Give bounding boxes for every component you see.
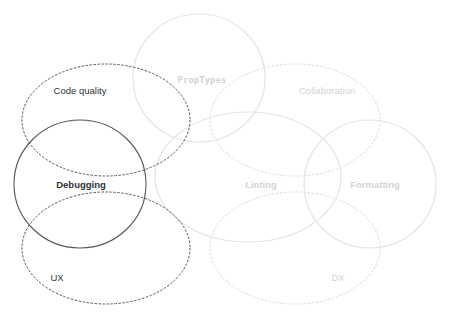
label-linting: Linting: [245, 180, 277, 190]
set-ux-shape[interactable]: [22, 192, 190, 304]
venn-diagram: Code quality Debugging UX PropTypes Coll…: [0, 0, 451, 323]
label-code-quality: Code quality: [54, 86, 107, 96]
label-debugging: Debugging: [56, 180, 106, 190]
label-ux: UX: [50, 273, 63, 283]
label-dx: DX: [331, 273, 344, 283]
set-dx-shape[interactable]: [210, 192, 380, 304]
venn-canvas: [0, 0, 451, 323]
set-collaboration-shape[interactable]: [210, 64, 380, 176]
label-proptypes: PropTypes: [178, 76, 227, 85]
label-formatting: Formatting: [350, 180, 400, 190]
set-linting-shape[interactable]: [155, 112, 341, 242]
label-collaboration: Collaboration: [299, 86, 355, 96]
set-code-quality-shape[interactable]: [22, 64, 190, 176]
